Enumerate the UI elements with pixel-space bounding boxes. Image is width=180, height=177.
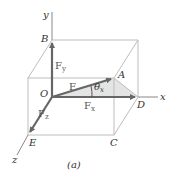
fy-base: F	[55, 60, 62, 71]
vector-fz-label: Fz	[38, 108, 49, 121]
theta-sub: x	[100, 86, 104, 94]
z-axis	[17, 135, 28, 155]
force-components-diagram: y x z B O A D E C F Fy Fx Fz θx (a)	[0, 0, 180, 177]
point-c-label: C	[110, 137, 118, 148]
y-axis-label: y	[42, 9, 49, 20]
x-axis-label: x	[160, 91, 166, 102]
vector-fx-label: Fx	[84, 100, 95, 113]
vector-f-label: F	[69, 81, 76, 92]
fx-base: F	[84, 100, 91, 111]
fy-sub: y	[61, 65, 66, 73]
fz-base: F	[38, 108, 45, 119]
fx-sub: x	[91, 105, 95, 113]
fz-sub: z	[45, 113, 49, 121]
point-b-label: B	[40, 33, 48, 44]
point-a-label: A	[117, 69, 125, 80]
figure-caption: (a)	[67, 159, 81, 170]
point-o-label: O	[40, 88, 48, 99]
point-d-label: D	[136, 99, 145, 110]
vector-fy-label: Fy	[55, 60, 66, 73]
z-axis-label: z	[11, 154, 18, 165]
point-e-label: E	[28, 137, 37, 148]
axes	[17, 12, 158, 155]
